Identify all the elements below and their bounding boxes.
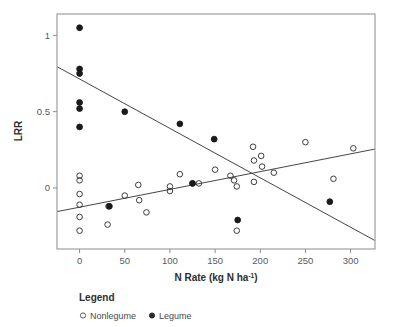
data-point-legume bbox=[211, 136, 217, 142]
legend-label-nonlegume: Nonlegume bbox=[90, 311, 136, 321]
chart-svg: 050100150200250300 00.51 LRR N Rate (kg … bbox=[0, 0, 393, 327]
x-tick-label: 100 bbox=[162, 255, 178, 266]
data-point-legume bbox=[122, 109, 128, 115]
y-axis-ticks: 00.51 bbox=[37, 30, 57, 194]
data-point-legume bbox=[77, 124, 83, 130]
legend: Legend Nonlegume Legume bbox=[79, 292, 192, 321]
plot-frame bbox=[57, 14, 375, 249]
legend-label-legume: Legume bbox=[159, 311, 192, 321]
x-tick-label: 250 bbox=[298, 255, 314, 266]
legend-marker-legume-icon bbox=[149, 313, 154, 318]
y-axis-title: LRR bbox=[13, 120, 24, 141]
data-point-legume bbox=[190, 180, 196, 186]
x-axis-title-tail: ) bbox=[254, 272, 257, 283]
x-tick-label: 150 bbox=[207, 255, 223, 266]
x-tick-label: 200 bbox=[252, 255, 268, 266]
data-point-legume bbox=[327, 199, 333, 205]
y-tick-label: 0.5 bbox=[37, 106, 50, 117]
y-tick-label: 0 bbox=[45, 182, 50, 193]
x-tick-label: 300 bbox=[343, 255, 359, 266]
data-point-legume bbox=[77, 25, 83, 31]
data-point-legume bbox=[77, 100, 83, 106]
data-point-legume bbox=[177, 121, 183, 127]
x-axis-ticks: 050100150200250300 bbox=[77, 249, 359, 266]
legend-marker-nonlegume-icon bbox=[80, 313, 85, 318]
legend-title: Legend bbox=[79, 292, 115, 303]
x-axis-title-main: N Rate (kg N ha bbox=[174, 272, 248, 283]
y-tick-label: 1 bbox=[45, 30, 50, 41]
x-axis-title: N Rate (kg N ha-1) bbox=[174, 272, 257, 284]
data-point-legume bbox=[77, 71, 83, 77]
scatter-plot-figure: 050100150200250300 00.51 LRR N Rate (kg … bbox=[0, 0, 393, 327]
x-tick-label: 0 bbox=[77, 255, 82, 266]
data-point-legume bbox=[106, 203, 112, 209]
x-tick-label: 50 bbox=[119, 255, 130, 266]
data-point-legume bbox=[235, 217, 241, 223]
data-point-legume bbox=[77, 106, 83, 112]
